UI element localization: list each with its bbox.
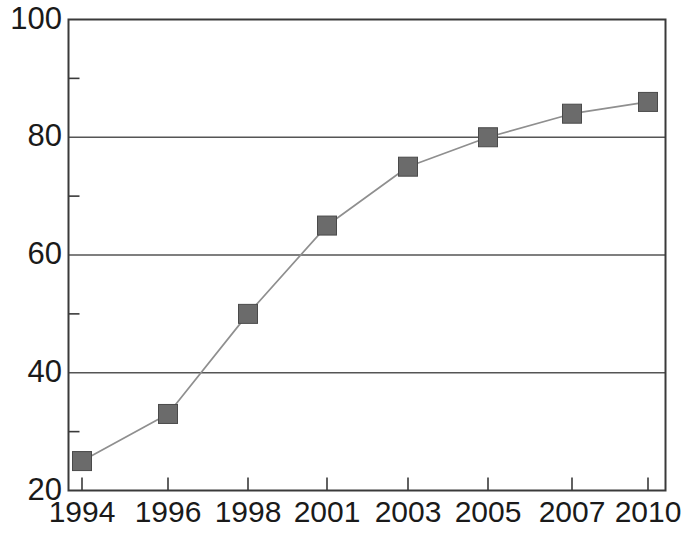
gridlines bbox=[69, 137, 666, 373]
data-point-1996 bbox=[159, 404, 178, 423]
data-point-1994 bbox=[73, 452, 92, 471]
data-point-1998 bbox=[239, 304, 258, 323]
x-axis-ticks bbox=[82, 478, 648, 491]
data-point-markers bbox=[73, 92, 658, 470]
line-chart: 10080604020 1994199619982001200320052007… bbox=[0, 0, 688, 549]
data-point-2010 bbox=[639, 92, 658, 111]
chart-plot-area bbox=[0, 0, 688, 549]
data-point-2001 bbox=[318, 216, 337, 235]
data-point-2005 bbox=[479, 128, 498, 147]
data-point-2003 bbox=[399, 157, 418, 176]
data-point-2007 bbox=[563, 104, 582, 123]
